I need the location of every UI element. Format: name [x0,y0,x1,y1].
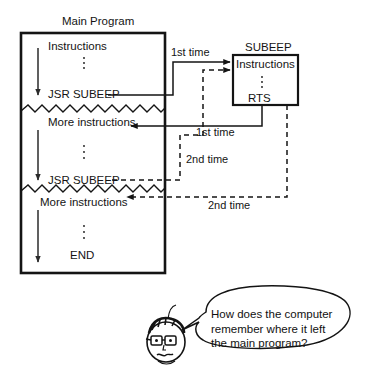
more-instructions-first-label: More instructions [48,117,136,129]
call-path-first-time [108,62,230,95]
jsr-subeep-second-label: JSR SUBEEP [48,175,120,187]
zigzag-separator-1 [21,105,165,112]
question-line-1: How does the computer [211,307,341,322]
end-label: END [70,250,94,262]
main-instructions-label: Instructions [48,41,107,53]
more-instructions-second-label: More instructions [40,197,128,209]
question-line-3: the main program? [211,336,341,351]
return-second-time-label: 2nd time [208,200,250,211]
cartoon-student [146,305,185,364]
return-first-time-label: 1st time [196,127,235,138]
question-line-2: remember where it left [211,322,341,337]
main-program-box [21,33,165,273]
call-first-time-label: 1st time [171,47,210,58]
call-second-time-label: 2nd time [186,154,228,165]
subeep-title: SUBEEP [245,42,292,54]
jsr-subeep-first-label: JSR SUBEEP [48,89,120,101]
main-program-title: Main Program [62,16,134,28]
diagram-canvas: Main Program Instructions JSR SUBEEP Mor… [0,0,367,380]
speech-bubble-text: How does the computer remember where it … [211,307,341,351]
rts-label: RTS [248,93,271,105]
subeep-instructions-label: Instructions [236,59,295,71]
return-path-second-time [127,105,287,197]
